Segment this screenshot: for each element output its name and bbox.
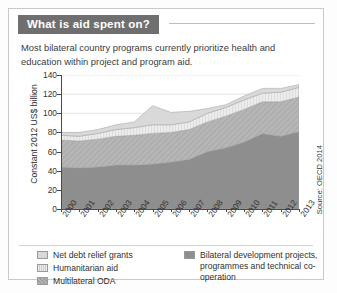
y-tick-mark [57, 94, 61, 95]
y-tick-mark [57, 152, 61, 153]
y-tick-label: 80 [48, 127, 57, 137]
legend-item[interactable]: Humanitarian aid [37, 263, 177, 274]
y-tick-mark [57, 75, 61, 76]
y-tick-mark [57, 209, 61, 210]
legend-label: Net debt relief grants [53, 250, 133, 261]
legend-swatch [37, 251, 48, 259]
y-axis-ticks: 020406080100120140 [21, 75, 57, 209]
y-tick-label: 60 [48, 147, 57, 157]
x-tick-label: 2013 [298, 198, 317, 219]
plot-area [61, 75, 299, 209]
stacked-area-svg [61, 75, 299, 209]
legend-swatch [37, 264, 48, 272]
y-tick-label: 140 [43, 70, 57, 80]
source-note: Source: OECD 2014 [315, 145, 324, 214]
legend-item[interactable]: Multilateral ODA [37, 276, 177, 287]
legend-label: Multilateral ODA [53, 276, 116, 287]
legend-label: Bilateral development projects, programm… [200, 250, 324, 283]
y-tick-mark [57, 190, 61, 191]
title-rule [169, 23, 315, 24]
y-tick-mark [57, 113, 61, 114]
y-tick-label: 20 [48, 185, 57, 195]
subtitle-text: Most bilateral country programs currentl… [21, 41, 305, 68]
infographic-card: What is aid spent on? Most bilateral cou… [0, 0, 337, 293]
legend-item[interactable]: Bilateral development projects, programm… [184, 250, 324, 283]
legend-column-left: Net debt relief grantsHumanitarian aidMu… [37, 250, 177, 289]
y-axis-line [61, 75, 62, 210]
y-tick-mark [57, 171, 61, 172]
chart-container: Constant 2012 US$ billion 02040608010012… [17, 71, 317, 271]
y-tick-label: 40 [48, 166, 57, 176]
legend-label: Humanitarian aid [53, 263, 118, 274]
page-title: What is aid spent on? [18, 15, 159, 34]
y-tick-label: 120 [43, 89, 57, 99]
card-frame: What is aid spent on? Most bilateral cou… [8, 8, 324, 280]
legend-swatch [37, 277, 48, 285]
legend-swatch [184, 251, 195, 259]
legend-column-right: Bilateral development projects, programm… [184, 250, 324, 285]
legend-item[interactable]: Net debt relief grants [37, 250, 177, 261]
y-tick-mark [57, 132, 61, 133]
y-tick-label: 100 [43, 108, 57, 118]
chart-legend: Net debt relief grantsHumanitarian aidMu… [19, 245, 313, 284]
area-layers [61, 85, 299, 209]
